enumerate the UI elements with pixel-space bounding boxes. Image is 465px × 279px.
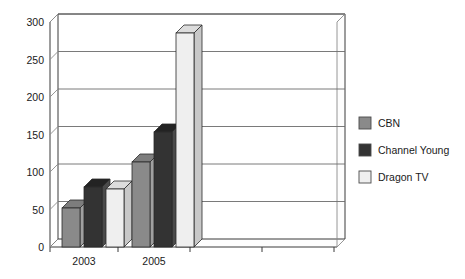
right-side-wall (337, 14, 345, 247)
y-tick-label: 50 (32, 204, 44, 216)
legend-item-channel-young[interactable]: Channel Young (359, 144, 449, 156)
bar-chart: 300 250 200 150 100 50 0 2003 2005 (0, 0, 465, 279)
bar-side-face (194, 25, 202, 247)
legend-label-cbn: CBN (378, 117, 400, 129)
chart-canvas: 300 250 200 150 100 50 0 2003 2005 (0, 0, 465, 279)
legend-item-cbn[interactable]: CBN (359, 117, 400, 129)
gridline-depth-200 (50, 89, 58, 97)
y-tick-label: 250 (26, 54, 44, 66)
gridline-depth-150 (50, 127, 58, 135)
legend-label-channel-young: Channel Young (378, 144, 449, 156)
legend-item-dragon-tv[interactable]: Dragon TV (359, 171, 429, 183)
bar-front-face (176, 33, 194, 247)
x-tick-label-2003: 2003 (72, 255, 96, 267)
x-axis-ticks (50, 247, 334, 252)
y-tick-label: 150 (26, 129, 44, 141)
legend-swatch-cbn (359, 117, 371, 129)
bar-front-face (106, 189, 124, 247)
y-axis-labels: 300 250 200 150 100 50 0 (26, 16, 44, 253)
gridline-depth-50 (50, 202, 58, 210)
legend-swatch-dragon-tv (359, 171, 371, 183)
bar-dragon-tv-2003[interactable] (106, 181, 132, 247)
legend-swatch-channel-young (359, 144, 371, 156)
bar-front-face (132, 162, 150, 247)
y-tick-label: 100 (26, 166, 44, 178)
x-axis-labels: 2003 2005 (72, 255, 166, 267)
x-tick-label-2005: 2005 (142, 255, 166, 267)
legend: CBN Channel Young Dragon TV (359, 117, 449, 183)
bar-side-face (124, 181, 132, 247)
bar-front-face (154, 132, 172, 247)
legend-label-dragon-tv: Dragon TV (378, 171, 429, 183)
bar-front-face (84, 187, 102, 247)
y-tick-label: 0 (38, 241, 44, 253)
bar-front-face (62, 208, 80, 247)
gridline-depth-100 (50, 164, 58, 172)
gridline-depth-250 (50, 52, 58, 60)
bar-dragon-tv-2005[interactable] (176, 25, 202, 247)
y-tick-label: 300 (26, 16, 44, 28)
y-tick-label: 200 (26, 91, 44, 103)
gridline-depth-300 (50, 14, 58, 22)
